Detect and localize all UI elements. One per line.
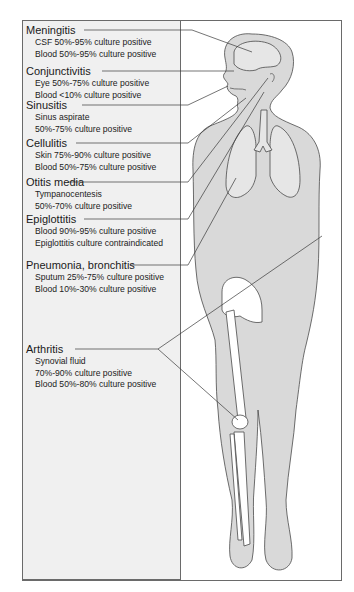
entry-title: Arthritis [26, 343, 156, 356]
entry-line: Sputum 25%-75% culture positive [26, 272, 164, 284]
leader-arthritis-knee [158, 349, 238, 420]
entry-line: 50%-70% culture positive [26, 201, 132, 213]
entry-title: Epiglottitis [26, 213, 163, 226]
entry-line: Synovial fluid [26, 356, 156, 368]
entry-title: Otitis media [26, 176, 132, 189]
entry-line: Sinus aspirate [26, 112, 132, 124]
entry-arthritis: Arthritis Synovial fluid 70%-90% culture… [26, 343, 156, 391]
entry-line: Tympanocentesis [26, 189, 132, 201]
entry-title: Cellulitis [26, 137, 156, 150]
entry-line: Eye 50%-75% culture positive [26, 78, 149, 90]
entry-line: 50%-75% culture positive [26, 124, 132, 136]
entry-meningitis: Meningitis CSF 50%-95% culture positive … [26, 24, 156, 60]
entry-line: Blood 50%-80% culture positive [26, 379, 156, 391]
entry-line: CSF 50%-95% culture positive [26, 37, 156, 49]
entry-sinusitis: Sinusitis Sinus aspirate 50%-75% culture… [26, 99, 132, 135]
entry-pneumonia-bronchitis: Pneumonia, bronchitis Sputum 25%-75% cul… [26, 259, 164, 295]
entry-line: Skin 75%-90% culture positive [26, 150, 156, 162]
entry-line: Blood 50%-75% culture positive [26, 162, 156, 174]
entry-title: Pneumonia, bronchitis [26, 259, 164, 272]
entry-line: Blood 50%-95% culture positive [26, 49, 156, 61]
entry-line: 70%-90% culture positive [26, 368, 156, 380]
entry-line: Blood 10%-30% culture positive [26, 284, 164, 296]
entry-epiglottitis: Epiglottitis Blood 90%-95% culture posit… [26, 213, 163, 249]
entry-conjunctivitis: Conjunctivitis Eye 50%-75% culture posit… [26, 65, 149, 101]
entry-title: Sinusitis [26, 99, 132, 112]
entry-line: Blood 90%-95% culture positive [26, 226, 163, 238]
entry-cellulitis: Cellulitis Skin 75%-90% culture positive… [26, 137, 156, 173]
entry-title: Conjunctivitis [26, 65, 149, 78]
entry-otitis-media: Otitis media Tympanocentesis 50%-70% cul… [26, 176, 132, 212]
entry-line: Epiglottitis culture contraindicated [26, 238, 163, 250]
entry-title: Meningitis [26, 24, 156, 37]
